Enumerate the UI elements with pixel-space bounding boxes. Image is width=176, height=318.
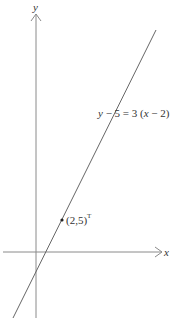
x-axis-label: x — [163, 246, 169, 258]
line-graph — [13, 30, 156, 318]
point-label: (2,5)T — [66, 212, 92, 227]
y-axis-label: y — [32, 1, 38, 13]
diagram-canvas: y x y − 5 = 3 (x − 2) (2,5)T — [0, 0, 176, 318]
line-equation-label: y − 5 = 3 (x − 2) — [97, 107, 170, 120]
x-axis — [3, 247, 162, 257]
line-diagram: y x y − 5 = 3 (x − 2) (2,5)T — [0, 0, 176, 318]
point-marker — [60, 218, 63, 221]
